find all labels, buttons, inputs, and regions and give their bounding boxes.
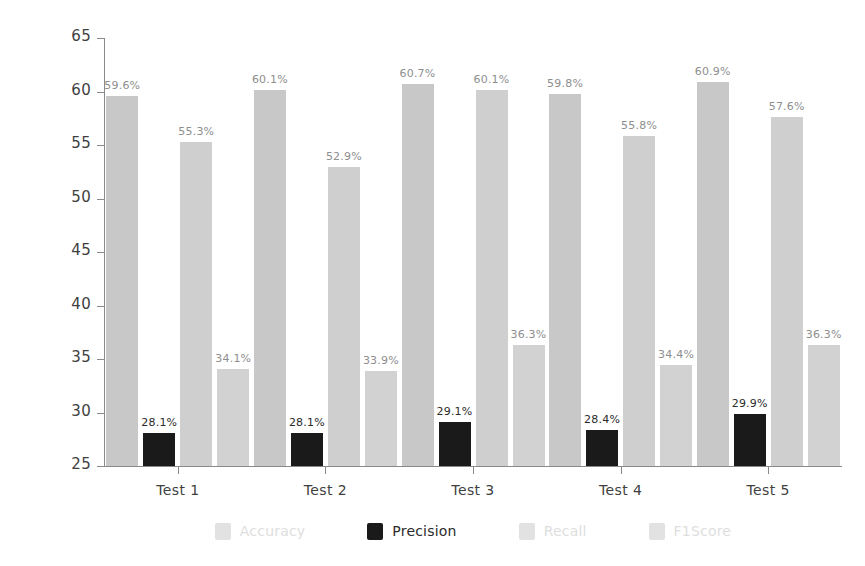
bar-value-label: 34.1%: [215, 352, 251, 365]
bar-accuracy-test-3: 60.7%: [402, 84, 434, 466]
bar-f1score-test-5: 36.3%: [808, 345, 840, 466]
x-tick-mark: [178, 466, 179, 474]
y-tick-mark: [97, 145, 104, 146]
y-tick: 55: [0, 145, 104, 146]
bar-value-label: 52.9%: [326, 150, 362, 163]
bar-value-label: 36.3%: [511, 328, 547, 341]
legend-label: Precision: [392, 523, 456, 539]
bar-accuracy-test-2: 60.1%: [254, 90, 286, 466]
y-tick-label: 25: [71, 455, 91, 473]
bar-precision-test-4: 28.4%: [586, 430, 618, 466]
y-tick-label: 30: [71, 402, 91, 420]
bar-value-label: 60.1%: [474, 73, 510, 86]
bar-value-label: 36.3%: [806, 328, 842, 341]
bar-recall-test-2: 52.9%: [328, 167, 360, 466]
x-tick-label: Test 1: [118, 482, 238, 498]
y-tick-label: 35: [71, 348, 91, 366]
bar-value-label: 60.9%: [695, 65, 731, 78]
x-tick-mark: [768, 466, 769, 474]
bar-value-label: 59.6%: [104, 79, 140, 92]
y-tick: 40: [0, 306, 104, 307]
legend-item-precision[interactable]: Precision: [367, 523, 456, 540]
bar-value-label: 55.8%: [621, 119, 657, 132]
legend-swatch-icon: [367, 523, 383, 540]
y-tick-label: 55: [71, 134, 91, 152]
legend-item-accuracy[interactable]: Accuracy: [215, 523, 306, 540]
bar-value-label: 60.1%: [252, 73, 288, 86]
legend-label: Accuracy: [240, 523, 306, 539]
bar-recall-test-1: 55.3%: [180, 142, 212, 466]
bar-f1score-test-4: 34.4%: [660, 365, 692, 466]
plot-bars: 59.6%28.1%55.3%34.1%60.1%28.1%52.9%33.9%…: [104, 38, 842, 466]
bar-value-label: 29.9%: [732, 397, 768, 410]
bar-value-label: 60.7%: [400, 67, 436, 80]
bar-recall-test-4: 55.8%: [623, 136, 655, 466]
y-tick-mark: [97, 413, 104, 414]
bar-value-label: 29.1%: [437, 405, 473, 418]
y-tick-label: 65: [71, 27, 91, 45]
y-tick-label: 60: [71, 81, 91, 99]
y-tick: 65: [0, 38, 104, 39]
y-tick-label: 45: [71, 241, 91, 259]
legend-label: F1Score: [674, 523, 732, 539]
legend-swatch-icon: [215, 523, 231, 540]
y-tick: 25: [0, 466, 104, 467]
bar-value-label: 55.3%: [178, 125, 214, 138]
legend-swatch-icon: [649, 523, 665, 540]
x-tick-label: Test 3: [413, 482, 533, 498]
bar-precision-test-2: 28.1%: [291, 433, 323, 466]
y-tick-label: 50: [71, 188, 91, 206]
y-tick-label: 40: [71, 295, 91, 313]
bar-f1score-test-1: 34.1%: [217, 369, 249, 466]
legend-label: Recall: [544, 523, 587, 539]
bar-accuracy-test-5: 60.9%: [697, 82, 729, 466]
x-tick-label: Test 2: [265, 482, 385, 498]
bar-value-label: 28.4%: [584, 413, 620, 426]
x-tick-label: Test 4: [561, 482, 681, 498]
bar-value-label: 28.1%: [289, 416, 325, 429]
y-tick-mark: [97, 38, 104, 39]
legend-item-f1score[interactable]: F1Score: [649, 523, 732, 540]
bar-recall-test-5: 57.6%: [771, 117, 803, 466]
bar-chart: Percentage [%] 253035404550556065 59.6%2…: [0, 0, 865, 566]
y-tick-mark: [97, 466, 104, 467]
bar-value-label: 33.9%: [363, 354, 399, 367]
bar-accuracy-test-4: 59.8%: [549, 94, 581, 466]
y-tick: 30: [0, 413, 104, 414]
y-tick-mark: [97, 252, 104, 253]
y-tick-mark: [97, 306, 104, 307]
y-tick: 45: [0, 252, 104, 253]
bar-value-label: 57.6%: [769, 100, 805, 113]
legend-swatch-icon: [519, 523, 535, 540]
x-tick-mark: [473, 466, 474, 474]
chart-legend: AccuracyPrecisionRecallF1Score: [104, 518, 842, 544]
bar-value-label: 28.1%: [141, 416, 177, 429]
x-tick-label: Test 5: [708, 482, 828, 498]
bar-f1score-test-2: 33.9%: [365, 371, 397, 466]
y-tick-mark: [97, 92, 104, 93]
bar-value-label: 59.8%: [547, 77, 583, 90]
bar-precision-test-1: 28.1%: [143, 433, 175, 466]
bar-recall-test-3: 60.1%: [476, 90, 508, 466]
y-tick: 35: [0, 359, 104, 360]
bar-value-label: 34.4%: [658, 348, 694, 361]
x-tick-mark: [325, 466, 326, 474]
bar-accuracy-test-1: 59.6%: [106, 96, 138, 466]
y-tick-mark: [97, 199, 104, 200]
bar-precision-test-3: 29.1%: [439, 422, 471, 466]
y-tick-mark: [97, 359, 104, 360]
y-tick: 60: [0, 92, 104, 93]
x-tick-mark: [621, 466, 622, 474]
legend-item-recall[interactable]: Recall: [519, 523, 587, 540]
bar-precision-test-5: 29.9%: [734, 414, 766, 466]
y-tick: 50: [0, 199, 104, 200]
bar-f1score-test-3: 36.3%: [513, 345, 545, 466]
